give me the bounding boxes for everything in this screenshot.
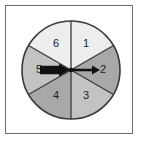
sector-label-1: 1 [83,37,89,49]
wheel-hub [69,68,73,72]
spinner-wheel-graphic: 123456 [0,0,141,143]
sector-label-6: 6 [53,37,59,49]
sector-label-3: 3 [83,89,89,101]
sector-label-4: 4 [53,89,59,101]
sector-label-2: 2 [100,63,106,75]
spinner-figure: 123456 [0,0,141,143]
